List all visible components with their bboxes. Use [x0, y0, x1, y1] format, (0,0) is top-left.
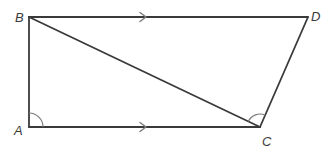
vertex-label-b: B	[15, 10, 24, 25]
trapezoid-diagram: B D A C	[0, 0, 322, 156]
vertex-label-a: A	[13, 123, 23, 138]
vertex-label-c: C	[262, 134, 272, 149]
angle-mark-a-icon	[29, 113, 43, 127]
segment-cd	[260, 17, 308, 127]
diagonal-bc	[29, 17, 260, 127]
vertex-label-d: D	[311, 9, 320, 24]
